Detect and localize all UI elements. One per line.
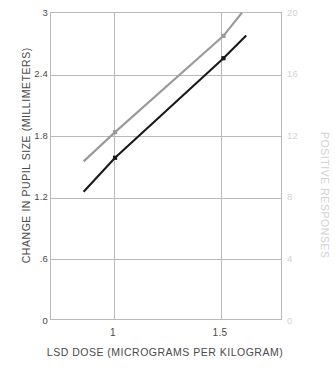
y-axis-right-title: POSITIVE RESPONSES bbox=[320, 85, 331, 305]
data-point-marker bbox=[221, 34, 225, 38]
y-axis-left-tick-label: 2.4 bbox=[34, 69, 48, 79]
data-series-layer bbox=[50, 12, 282, 320]
series-line bbox=[84, 13, 242, 162]
chart-figure: 3 2.4 1.8 1.2 .6 0 20 16 12 8 4 0 1 1.5 … bbox=[0, 0, 335, 372]
x-axis-tick-label: 1.5 bbox=[200, 328, 240, 338]
y-axis-left-title: CHANGE IN PUPIL SIZE (MILLIMETERS) bbox=[21, 25, 32, 285]
y-axis-right-tick-label: 0 bbox=[287, 316, 292, 326]
y-axis-right-tick-label: 12 bbox=[287, 131, 298, 141]
data-point-marker bbox=[221, 56, 225, 60]
y-axis-right-tick-label: 8 bbox=[287, 192, 292, 202]
y-axis-right-tick-label: 20 bbox=[287, 8, 298, 18]
data-point-marker bbox=[113, 156, 117, 160]
data-point-marker bbox=[113, 130, 117, 134]
y-axis-right-tick-label: 4 bbox=[287, 254, 292, 264]
y-axis-left-tick-label: 0 bbox=[43, 316, 48, 326]
x-axis-tick-label: 1 bbox=[93, 328, 133, 338]
x-axis-title: LSD DOSE (MICROGRAMS PER KILOGRAM) bbox=[20, 347, 310, 358]
y-axis-left-tick-label: 3 bbox=[43, 8, 48, 18]
y-axis-left-tick-label: 1.2 bbox=[34, 192, 48, 202]
y-axis-left-tick-label: 1.8 bbox=[34, 131, 48, 141]
y-axis-left-tick-label: .6 bbox=[40, 254, 48, 264]
y-axis-right-tick-label: 16 bbox=[287, 69, 298, 79]
